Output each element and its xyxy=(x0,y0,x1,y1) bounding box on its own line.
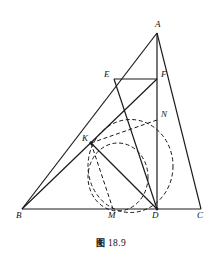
geometry-canvas xyxy=(0,0,222,259)
vertex-label-d: D xyxy=(152,211,159,220)
vertex-label-b: B xyxy=(16,211,22,220)
vertex-label-k: K xyxy=(82,134,88,143)
point-marker-k xyxy=(89,141,92,144)
chord-kn xyxy=(91,120,157,143)
figure-caption: 图 18.9 xyxy=(0,236,222,249)
segment-ed xyxy=(114,79,157,209)
caption-cjk-label: 图 xyxy=(96,238,105,248)
chord-km xyxy=(91,143,113,209)
vertex-label-a: A xyxy=(155,20,161,29)
side-ab xyxy=(22,33,157,209)
vertex-label-c: C xyxy=(197,211,203,220)
vertex-label-e: E xyxy=(104,70,110,79)
segment-kd xyxy=(91,143,157,209)
side-ca xyxy=(157,33,201,209)
geometry-figure: A B C D E F K M N 图 18.9 xyxy=(0,0,222,259)
vertex-label-n: N xyxy=(161,110,167,119)
caption-number: 18.9 xyxy=(108,238,126,248)
vertex-label-f: F xyxy=(161,70,167,79)
vertex-label-m: M xyxy=(108,211,116,220)
